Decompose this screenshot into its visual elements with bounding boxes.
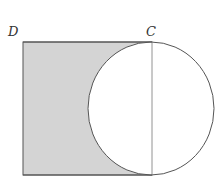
geometry-diagram: D C [0,0,215,178]
vertex-label-c: C [146,24,156,39]
circle [88,42,214,175]
vertex-label-d: D [7,24,19,39]
